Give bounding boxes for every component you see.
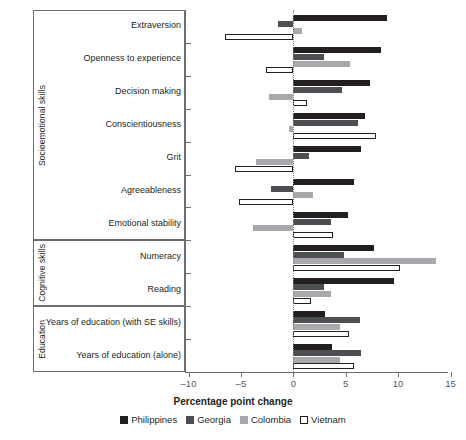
- bar-philippines-8: [293, 245, 374, 251]
- bar-georgia-7: [293, 219, 331, 225]
- bar-vietnam-3: [293, 100, 307, 106]
- bar-colombia-3: [269, 94, 293, 100]
- bar-vietnam-2: [266, 67, 293, 73]
- bar-georgia-8: [293, 252, 343, 258]
- chart-figure: Socioemotional skillsCognitive skillsEdu…: [0, 0, 466, 440]
- bar-philippines-9: [293, 278, 394, 284]
- y-axis-category-label: Reading: [35, 284, 185, 295]
- bar-georgia-2: [293, 54, 323, 60]
- legend-swatch-icon: [240, 416, 248, 424]
- legend-swatch-icon: [120, 416, 128, 424]
- bar-colombia-2: [293, 61, 350, 67]
- bar-vietnam-5: [235, 166, 294, 172]
- bar-georgia-3: [293, 87, 341, 93]
- bar-vietnam-10: [293, 331, 349, 337]
- bar-colombia-8: [293, 258, 436, 264]
- bar-vietnam-9: [293, 298, 311, 304]
- bar-colombia-1: [293, 28, 301, 34]
- bar-georgia-10: [293, 317, 360, 323]
- legend-item-colombia[interactable]: Colombia: [240, 414, 291, 425]
- legend-swatch-icon: [300, 416, 308, 424]
- legend-label: Philippines: [131, 414, 177, 425]
- bar-philippines-4: [293, 113, 364, 119]
- y-axis-category-label: Grit: [35, 152, 185, 163]
- y-axis-category-label: Conscientiousness: [35, 119, 185, 130]
- y-axis-tick: [185, 43, 191, 44]
- bar-vietnam-8: [293, 265, 400, 271]
- y-axis-tick: [185, 240, 191, 241]
- bar-philippines-6: [293, 179, 354, 185]
- plot-area: Socioemotional skillsCognitive skillsEdu…: [0, 0, 466, 440]
- y-axis-category-label: Decision making: [35, 86, 185, 97]
- x-axis-tick: [398, 372, 399, 377]
- y-axis-category-label: Extraversion: [35, 20, 185, 31]
- y-axis-tick: [185, 207, 191, 208]
- bar-colombia-5: [256, 159, 294, 165]
- x-axis-tick-label: 15: [445, 378, 456, 389]
- bar-colombia-7: [253, 225, 293, 231]
- legend-swatch-icon: [186, 416, 194, 424]
- bar-philippines-10: [293, 311, 324, 317]
- x-axis-line: [185, 372, 448, 373]
- x-axis-title: Percentage point change: [0, 396, 466, 407]
- y-axis-tick: [185, 142, 191, 143]
- bar-georgia-1: [278, 21, 294, 27]
- bar-philippines-5: [293, 146, 361, 152]
- x-axis-tick: [189, 372, 190, 377]
- bar-vietnam-4: [293, 133, 376, 139]
- y-axis-tick: [185, 109, 191, 110]
- y-axis-category-label: Openness to experience: [35, 53, 185, 64]
- y-axis-tick: [185, 76, 191, 77]
- legend-label: Vietnam: [311, 414, 346, 425]
- y-axis-tick: [185, 273, 191, 274]
- y-axis-tick: [185, 339, 191, 340]
- bar-philippines-2: [293, 47, 381, 53]
- legend-label: Georgia: [197, 414, 231, 425]
- bar-philippines-7: [293, 212, 347, 218]
- bar-vietnam-7: [293, 232, 333, 238]
- y-axis-line: [185, 10, 186, 372]
- x-axis-tick: [451, 372, 452, 377]
- y-axis-category-label: Emotional stability: [35, 218, 185, 229]
- x-axis-tick: [346, 372, 347, 377]
- x-axis-tick-label: 5: [343, 378, 348, 389]
- bar-georgia-6: [271, 186, 293, 192]
- bar-colombia-9: [293, 291, 331, 297]
- bar-vietnam-1: [225, 34, 293, 40]
- y-axis-tick: [185, 306, 191, 307]
- bar-colombia-11: [293, 357, 340, 363]
- chart-legend: PhilippinesGeorgiaColombiaVietnam: [0, 414, 466, 425]
- x-axis-tick-label: 0: [291, 378, 296, 389]
- x-axis-tick-label: –5: [236, 378, 247, 389]
- bar-colombia-6: [293, 192, 313, 198]
- y-axis-category-label: Years of education (alone): [35, 350, 185, 361]
- bar-georgia-9: [293, 284, 323, 290]
- bar-philippines-1: [293, 15, 386, 21]
- y-axis-category-label: Years of education (with SE skills): [35, 317, 185, 328]
- bar-georgia-11: [293, 350, 361, 356]
- x-axis-tick-label: –10: [181, 378, 197, 389]
- zero-reference-line: [293, 10, 294, 372]
- bar-philippines-3: [293, 80, 370, 86]
- bar-philippines-11: [293, 344, 332, 350]
- legend-item-georgia[interactable]: Georgia: [186, 414, 231, 425]
- y-axis-tick: [185, 175, 191, 176]
- x-axis-tick-label: 10: [393, 378, 404, 389]
- x-axis-tick: [293, 372, 294, 377]
- bar-vietnam-11: [293, 363, 354, 369]
- bar-georgia-4: [293, 120, 358, 126]
- legend-label: Colombia: [251, 414, 291, 425]
- bar-vietnam-6: [239, 199, 293, 205]
- bar-colombia-10: [293, 324, 340, 330]
- legend-item-vietnam[interactable]: Vietnam: [300, 414, 346, 425]
- legend-item-philippines[interactable]: Philippines: [120, 414, 177, 425]
- bar-georgia-5: [293, 153, 309, 159]
- y-axis-category-label: Agreeableness: [35, 185, 185, 196]
- y-axis-category-label: Numeracy: [35, 251, 185, 262]
- x-axis-tick: [241, 372, 242, 377]
